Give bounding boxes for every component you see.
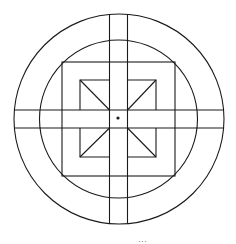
diagonal-bottom-right <box>128 128 157 157</box>
geometric-figure <box>0 0 236 244</box>
center-dot <box>116 116 119 119</box>
diagonal-top-right <box>128 80 157 110</box>
diagonal-bottom-left <box>80 128 110 157</box>
caption-fragment: ··· <box>138 238 147 244</box>
diagonal-top-left <box>80 80 110 110</box>
